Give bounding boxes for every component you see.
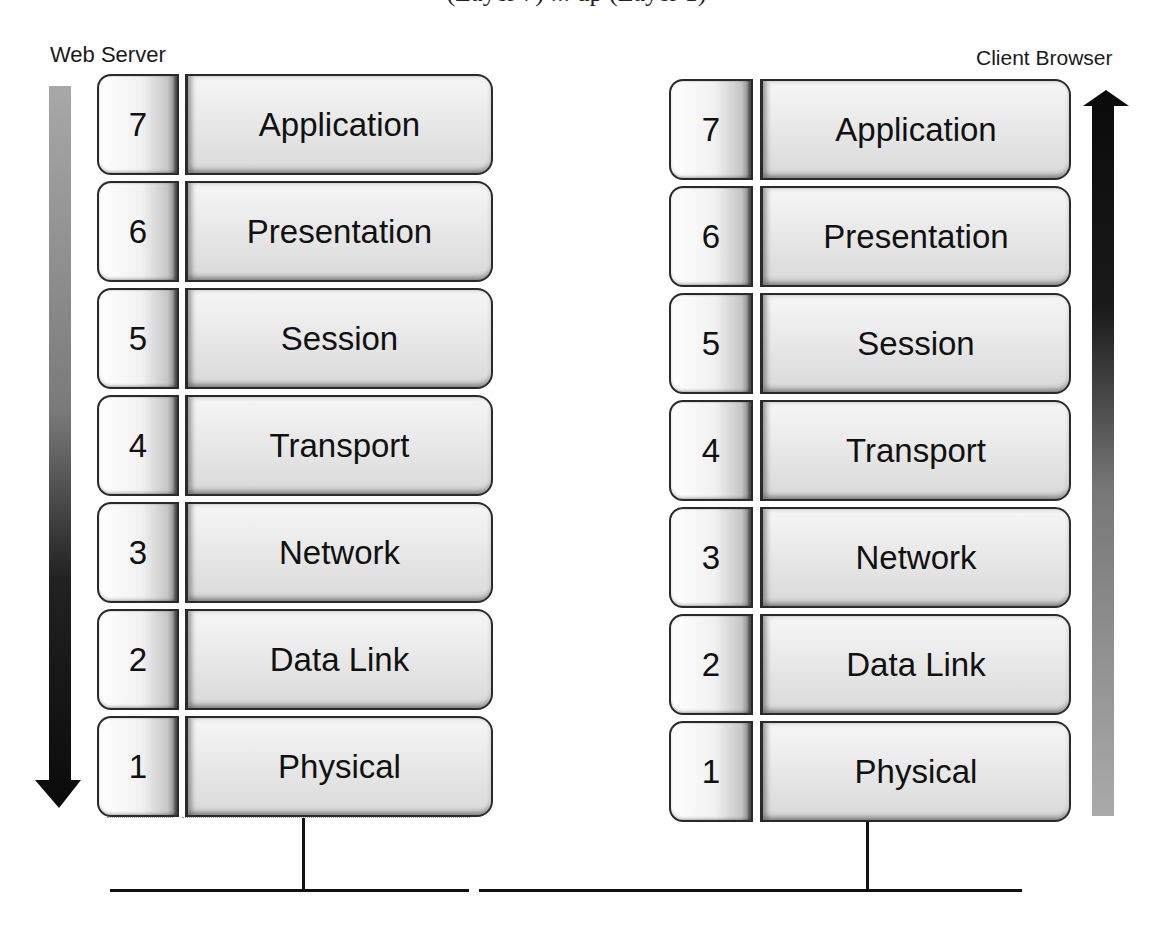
layer-name: Physical: [760, 721, 1071, 822]
layer-name: Network: [185, 502, 493, 603]
network-bus-left: [110, 889, 469, 892]
layer-name: Session: [760, 293, 1071, 394]
layer-name: Transport: [760, 400, 1071, 501]
layer-name: Network: [760, 507, 1071, 608]
layer-number: 5: [669, 293, 753, 394]
layer-number: 5: [97, 288, 179, 389]
layer-name: Transport: [185, 395, 493, 496]
client-browser-title: Client Browser: [976, 46, 1113, 70]
layer-number: 3: [97, 502, 179, 603]
web-server-stack: 7 Application 6 Presentation 5 Session 4…: [97, 74, 493, 819]
layer-name: Data Link: [185, 609, 493, 710]
up-arrow-icon: [1082, 88, 1132, 818]
layer-name: Presentation: [760, 186, 1071, 287]
clipped-caption: (Layer 7) ... up (Layer 1): [0, 0, 1153, 8]
layer-number: 2: [97, 609, 179, 710]
layer-name: Data Link: [760, 614, 1071, 715]
layer-name: Presentation: [185, 181, 493, 282]
layer-number: 1: [97, 716, 179, 817]
layer-number: 7: [669, 79, 753, 180]
client-browser-stack: 7 Application 6 Presentation 5 Session 4…: [669, 79, 1071, 824]
layer-number: 4: [97, 395, 179, 496]
layer-name: Application: [185, 74, 493, 175]
down-arrow-icon: [33, 84, 83, 812]
client-drop-line: [866, 822, 869, 892]
layer-name: Physical: [185, 716, 493, 817]
base-dotted-line: [182, 817, 470, 818]
layer-name: Application: [760, 79, 1071, 180]
layer-number: 7: [97, 74, 179, 175]
layer-name: Session: [185, 288, 493, 389]
base-dotted-line: [107, 817, 173, 818]
layer-number: 4: [669, 400, 753, 501]
layer-number: 2: [669, 614, 753, 715]
layer-number: 6: [669, 186, 753, 287]
layer-number: 3: [669, 507, 753, 608]
network-bus-right: [479, 889, 1022, 892]
server-drop-line: [302, 818, 305, 891]
web-server-title: Web Server: [50, 42, 166, 68]
layer-number: 6: [97, 181, 179, 282]
layer-number: 1: [669, 721, 753, 822]
